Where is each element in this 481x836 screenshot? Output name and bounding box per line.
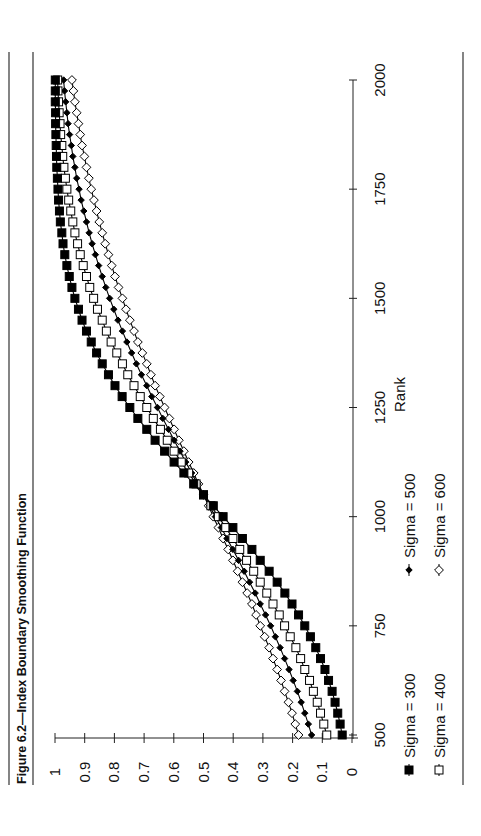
figure-title: Figure 6.2—Index Boundary Smoothing Func… (15, 493, 29, 784)
value-tick-label: 0.9 (76, 762, 93, 783)
series-sigma400 (54, 76, 331, 739)
value-tick-label: 0 (343, 768, 360, 776)
rank-tick-label: 750 (371, 613, 388, 638)
value-tick-label: 0.4 (224, 762, 241, 783)
figure-canvas: Figure 6.2—Index Boundary Smoothing Func… (0, 0, 481, 836)
value-tick-label: 0.1 (313, 762, 330, 783)
rank-tick-label: 1000 (371, 500, 388, 533)
rank-tick-label: 2000 (371, 63, 388, 96)
value-tick-label: 0.7 (135, 762, 152, 783)
value-axis: 00.10.20.30.40.50.60.70.80.91 (46, 733, 360, 782)
legend-item: Sigma = 500 (401, 473, 418, 576)
legend-label: Sigma = 600 (431, 473, 448, 558)
legend-item: Sigma = 300 (401, 673, 418, 776)
rank-tick-label: 1500 (371, 282, 388, 315)
legend-item: Sigma = 600 (431, 473, 448, 576)
series-sigma300 (51, 76, 346, 739)
x-axis-label: Rank (391, 376, 408, 412)
legend-item: Sigma = 400 (431, 673, 448, 776)
rank-tick-label: 1750 (371, 172, 388, 205)
value-tick-label: 0.8 (105, 762, 122, 783)
legend-label: Sigma = 300 (401, 673, 418, 758)
rank-tick-label: 1250 (371, 391, 388, 424)
legend: Sigma = 300Sigma = 400Sigma = 500Sigma =… (401, 473, 448, 776)
series-sigma600 (68, 76, 303, 740)
value-tick-label: 0.5 (195, 762, 212, 783)
legend-label: Sigma = 500 (401, 473, 418, 558)
value-tick-label: 0.3 (254, 762, 271, 783)
rank-tick-label: 500 (371, 722, 388, 747)
value-tick-label: 0.6 (165, 762, 182, 783)
value-tick-label: 1 (46, 768, 63, 776)
rank-axis: 50075010001250150017502000 (349, 63, 388, 747)
value-tick-label: 0.2 (284, 762, 301, 783)
legend-label: Sigma = 400 (431, 673, 448, 758)
plot-area (51, 76, 346, 740)
series-sigma500 (60, 77, 314, 738)
